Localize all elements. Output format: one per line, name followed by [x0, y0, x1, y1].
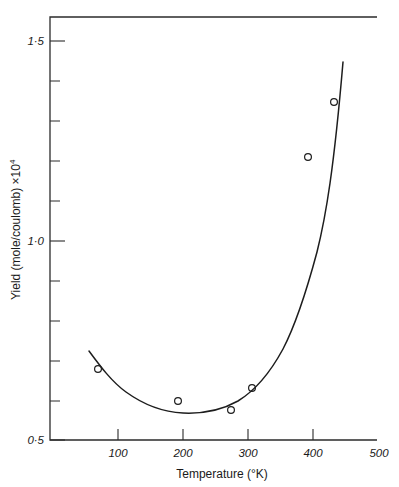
data-point-3 [228, 407, 235, 414]
x-tick-label-200: 200 [172, 447, 193, 459]
y-axis-tick-labels: 1·5 1·0 0·5 [27, 35, 44, 446]
data-points [95, 99, 338, 414]
svg-text:Yield (mole/coulomb) ×104: Yield (mole/coulomb) ×104 [8, 159, 23, 300]
data-point-5 [305, 154, 312, 161]
yield-vs-temperature-chart: 1·5 1·0 0·5 100 200 300 400 500 Temperat… [0, 0, 399, 487]
data-point-1 [95, 366, 102, 373]
figure-container: 1·5 1·0 0·5 100 200 300 400 500 Temperat… [0, 0, 399, 487]
y-axis-label-exponent: 4 [8, 159, 17, 164]
plot-frame [50, 17, 377, 440]
x-tick-label-100: 100 [108, 447, 128, 459]
y-axis-label-group: Yield (mole/coulomb) ×104 [8, 159, 23, 300]
x-axis-tick-labels: 100 200 300 400 500 [108, 447, 389, 459]
x-tick-label-500: 500 [369, 447, 389, 459]
x-axis-label: Temperature (°K) [176, 467, 268, 481]
data-point-6 [331, 99, 338, 106]
x-tick-label-300: 300 [238, 447, 258, 459]
y-tick-label-1-5: 1·5 [27, 35, 44, 47]
data-point-2 [175, 398, 182, 405]
y-tick-label-0-5: 0·5 [27, 434, 44, 446]
y-axis-label: Yield (mole/coulomb) ×10 [9, 164, 23, 300]
y-tick-label-1-0: 1·0 [27, 235, 44, 247]
x-axis-ticks [118, 429, 313, 440]
x-tick-label-400: 400 [303, 447, 323, 459]
y-axis-major-ticks [50, 41, 65, 440]
fitted-curve [89, 62, 343, 413]
